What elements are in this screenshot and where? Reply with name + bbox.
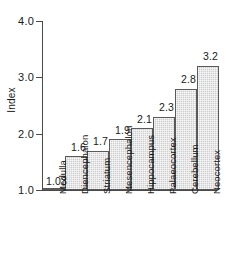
cat-label-neocortex: Neocortex	[212, 150, 222, 194]
bar-chart: 4.0 3.0 2.0 1.0 Index 1.03 1.6 1.7 1.9 2…	[0, 0, 230, 269]
cat-label-palaeocortex: Palaeocortex	[168, 137, 178, 194]
y-axis-title: Index	[7, 75, 17, 125]
cat-label-diencephalon: Diencephalon	[80, 135, 90, 194]
bar-value-striatum: 1.7	[93, 136, 108, 147]
bar-value-cerebellum: 2.8	[181, 74, 196, 85]
cat-label-striatum: Striatum	[102, 158, 112, 194]
cat-label-cerebellum: Cerebellum	[190, 144, 200, 194]
cat-label-hippocampus: Hippocampus	[146, 135, 156, 194]
cat-label-mesencephalon: Mesencephalon	[124, 126, 134, 194]
bar-value-neocortex: 3.2	[203, 51, 218, 62]
y-tick-4	[36, 21, 42, 22]
bar-value-hippocampus: 2.1	[137, 114, 152, 125]
y-tick-label-2: 2.0	[2, 129, 34, 140]
y-tick-label-1: 1.0	[2, 185, 34, 196]
y-tick-3	[36, 77, 42, 78]
y-tick-2	[36, 134, 42, 135]
bar-value-palaeocortex: 2.3	[159, 102, 174, 113]
y-tick-label-4: 4.0	[2, 16, 34, 27]
cat-label-medulla: Medulla	[58, 160, 68, 194]
